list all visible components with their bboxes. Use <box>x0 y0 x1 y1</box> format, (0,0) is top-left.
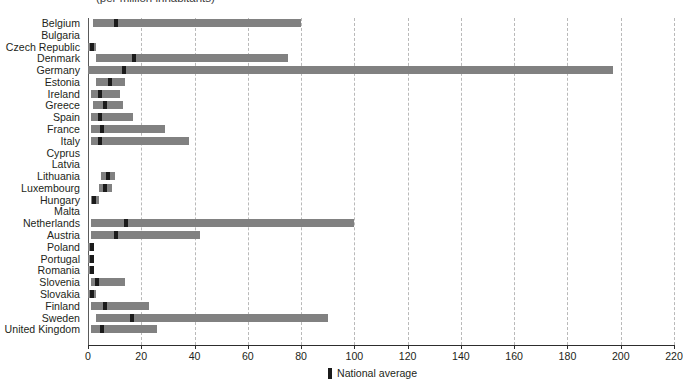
category-label: Portugal <box>41 254 80 265</box>
range-bar <box>91 302 150 310</box>
national-average-marker <box>100 125 104 133</box>
chart-row <box>88 290 674 299</box>
chart-row <box>88 243 674 252</box>
national-average-marker <box>122 66 126 74</box>
category-label: Ireland <box>48 89 80 100</box>
national-average-marker <box>130 314 134 322</box>
range-bar <box>91 137 190 145</box>
chart-row <box>88 325 674 334</box>
range-bar <box>91 219 355 227</box>
range-bar <box>88 66 613 74</box>
category-label: Malta <box>54 206 80 217</box>
category-label: France <box>47 124 80 135</box>
x-axis-line <box>88 345 674 346</box>
national-average-marker <box>92 196 96 204</box>
x-tick <box>354 345 355 349</box>
national-average-marker <box>114 231 118 239</box>
x-tick-label: 120 <box>399 350 417 362</box>
x-tick-label: 140 <box>452 350 470 362</box>
x-tick-label: 0 <box>85 350 91 362</box>
x-tick-label: 80 <box>295 350 307 362</box>
national-average-marker <box>132 54 136 62</box>
x-tick <box>248 345 249 349</box>
chart-row <box>88 101 674 110</box>
category-label: Czech Republic <box>6 42 80 53</box>
x-tick-label: 60 <box>242 350 254 362</box>
x-tick-label: 100 <box>346 350 364 362</box>
chart-row <box>88 149 674 158</box>
chart-row <box>88 78 674 87</box>
chart-row <box>88 90 674 99</box>
chart-row <box>88 207 674 216</box>
chart-row <box>88 125 674 134</box>
national-average-marker <box>103 302 107 310</box>
x-tick-label: 180 <box>559 350 577 362</box>
range-bar <box>96 54 288 62</box>
chart-row <box>88 160 674 169</box>
chart-row <box>88 54 674 63</box>
national-average-marker <box>98 90 102 98</box>
category-label: Belgium <box>42 18 80 29</box>
chart-row <box>88 314 674 323</box>
x-tick <box>88 345 89 349</box>
x-tick <box>567 345 568 349</box>
national-average-marker <box>108 78 112 86</box>
chart-row <box>88 219 674 228</box>
chart-row <box>88 184 674 193</box>
category-label: Denmark <box>37 53 80 64</box>
national-average-marker <box>95 278 99 286</box>
national-average-swatch-icon <box>328 368 332 379</box>
chart-row <box>88 19 674 28</box>
category-label: Finland <box>45 301 80 312</box>
range-bar <box>91 90 120 98</box>
national-average-marker <box>106 172 110 180</box>
category-label: United Kingdom <box>5 324 80 335</box>
x-tick <box>141 345 142 349</box>
national-average-marker <box>90 243 94 251</box>
category-label: Estonia <box>45 77 80 88</box>
chart-row <box>88 172 674 181</box>
x-tick <box>195 345 196 349</box>
x-tick-label: 20 <box>135 350 147 362</box>
chart-legend: National average <box>328 367 417 379</box>
range-bar <box>93 101 122 109</box>
chart-row <box>88 31 674 40</box>
chart-row <box>88 266 674 275</box>
chart-row <box>88 302 674 311</box>
category-label: Greece <box>45 100 80 111</box>
chart-row <box>88 113 674 122</box>
chart-row <box>88 255 674 264</box>
x-tick-label: 200 <box>612 350 630 362</box>
national-average-marker <box>90 266 94 274</box>
national-average-marker <box>124 219 128 227</box>
category-label: Lithuania <box>37 171 80 182</box>
chart-row <box>88 66 674 75</box>
chart-row <box>88 278 674 287</box>
x-tick <box>514 345 515 349</box>
x-tick <box>461 345 462 349</box>
category-label: Italy <box>61 136 80 147</box>
category-label: Cyprus <box>46 148 80 159</box>
national-average-marker <box>90 255 94 263</box>
range-bar <box>93 19 301 27</box>
category-label: Romania <box>38 265 80 276</box>
x-tick-label: 220 <box>665 350 683 362</box>
category-label: Germany <box>36 65 80 76</box>
category-label: Slovakia <box>40 289 80 300</box>
x-tick-label: 40 <box>189 350 201 362</box>
category-label: Hungary <box>40 195 80 206</box>
category-label: Netherlands <box>23 218 80 229</box>
gridline-220 <box>674 18 676 345</box>
range-bar <box>91 231 200 239</box>
x-tick <box>674 345 675 349</box>
x-tick <box>408 345 409 349</box>
plot-area <box>88 18 674 345</box>
legend-label-national-average: National average <box>337 367 417 379</box>
chart-row <box>88 137 674 146</box>
chart-row <box>88 231 674 240</box>
category-label: Latvia <box>52 159 80 170</box>
chart-row <box>88 43 674 52</box>
category-label: Luxembourg <box>21 183 80 194</box>
category-label: Spain <box>53 112 80 123</box>
